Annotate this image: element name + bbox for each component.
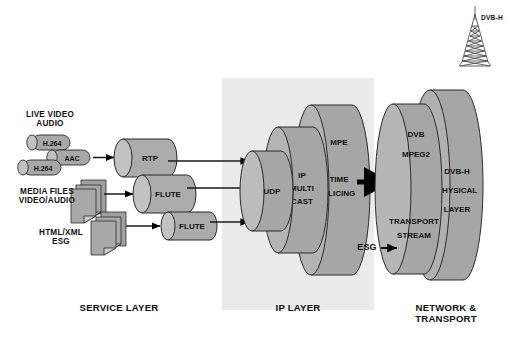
diagram-canvas: H.264 AAC H.264 bbox=[0, 0, 508, 345]
network-label-physical: PHYSICAL bbox=[437, 186, 478, 195]
source-label-media-files: MEDIA FILES VIDEO/AUDIO bbox=[4, 187, 90, 205]
ip-label-time: TIME bbox=[329, 175, 349, 184]
protocol-cylinder-flute-1: FLUTE bbox=[133, 175, 196, 213]
ip-label-multi: MULTI bbox=[290, 184, 314, 193]
protocol-cylinder-rtp: RTP bbox=[114, 139, 177, 177]
ip-label-udp: UDP bbox=[264, 187, 282, 196]
codec-label-h264-bottom: H.264 bbox=[34, 165, 53, 172]
network-label-layer: LAYER bbox=[444, 205, 471, 214]
layer-label-ip: IP LAYER bbox=[248, 303, 348, 314]
protocol-label-rtp: RTP bbox=[142, 154, 159, 163]
tower-label-dvbh: DVB-H bbox=[481, 14, 507, 21]
ip-label-mpe: MPE bbox=[330, 138, 348, 147]
network-label-dvbh: DVB-H bbox=[444, 167, 470, 176]
codec-label-aac: AAC bbox=[64, 155, 79, 162]
source-label-html-xml-esg: HTML/XML ESG bbox=[18, 228, 104, 246]
codec-label-h264-top: H.264 bbox=[43, 140, 62, 147]
protocol-label-flute-2: FLUTE bbox=[179, 222, 205, 231]
protocol-cylinder-flute-2: FLUTE bbox=[161, 212, 217, 240]
ip-label-ip: IP bbox=[298, 171, 306, 180]
ip-label-cast: CAST bbox=[291, 197, 313, 206]
codec-cylinder-h264-top: H.264 bbox=[27, 135, 70, 150]
network-label-mpeg2: MPEG2 bbox=[402, 150, 431, 159]
network-label-stream: STREAM bbox=[397, 231, 431, 240]
layer-label-service: SERVICE LAYER bbox=[44, 303, 194, 314]
ip-cylinder-udp: UDP bbox=[240, 151, 293, 231]
layer-label-network-transport: NETWORK & TRANSPORT bbox=[390, 303, 502, 324]
protocol-label-flute-1: FLUTE bbox=[155, 190, 181, 199]
esg-arrow-label: ESG bbox=[352, 242, 382, 252]
source-label-live-video: LIVE VIDEO AUDIO bbox=[8, 110, 92, 128]
codec-cylinder-h264-bottom: H.264 bbox=[18, 160, 61, 175]
network-label-dvb: DVB bbox=[408, 130, 425, 139]
diagram-svg: H.264 AAC H.264 bbox=[0, 0, 508, 345]
network-label-transport: TRANSPORT bbox=[389, 217, 439, 226]
